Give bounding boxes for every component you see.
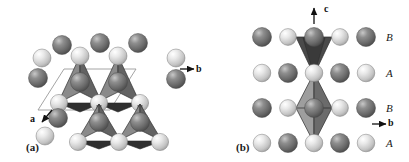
light-atom xyxy=(280,29,297,46)
dark-atom xyxy=(331,134,350,153)
light-atom xyxy=(280,100,297,117)
stacking-label-row-2: A xyxy=(386,67,393,79)
axis-label-a-panel-a: a xyxy=(30,113,35,124)
atom-row-back xyxy=(53,34,148,55)
light-atom xyxy=(305,64,323,82)
dark-atom xyxy=(129,34,148,53)
stacking-label-row-1: B xyxy=(386,31,393,43)
dark-atom xyxy=(131,113,150,132)
dark-atom xyxy=(53,36,72,55)
dark-atom xyxy=(253,99,272,118)
panel-label-a: (a) xyxy=(26,141,39,153)
light-atom xyxy=(253,134,271,152)
axis-label-c-panel-b: c xyxy=(324,3,328,14)
crystal-structure-figure: (a) (b) b a c b B A B A xyxy=(0,0,409,162)
axis-label-b-panel-b: b xyxy=(388,117,394,128)
light-atom xyxy=(33,49,51,67)
light-atom xyxy=(109,47,127,65)
dark-atom xyxy=(90,113,109,132)
panel-a-group xyxy=(29,34,195,151)
light-atom xyxy=(357,64,375,82)
light-atom xyxy=(151,133,168,150)
dark-atom xyxy=(109,73,128,92)
light-atom xyxy=(357,134,375,152)
stacking-label-row-3: B xyxy=(386,102,393,114)
light-atom xyxy=(110,133,127,150)
light-atom xyxy=(69,133,86,150)
panel-b-group xyxy=(253,8,387,153)
light-atom xyxy=(305,134,323,152)
panel-label-b: (b) xyxy=(236,141,249,153)
stacking-label-row-4: A xyxy=(386,137,393,149)
atom-row-B-lower xyxy=(253,99,376,118)
atom-row-A-bottom xyxy=(253,134,375,153)
dark-atom xyxy=(305,99,324,118)
light-atom xyxy=(253,64,271,82)
dark-atom xyxy=(29,69,48,88)
dark-atom xyxy=(71,73,90,92)
dark-atom xyxy=(279,134,298,153)
dark-atom xyxy=(305,28,324,47)
atom-row-A-upper xyxy=(253,64,375,83)
dark-atom xyxy=(331,64,350,83)
structure-svg xyxy=(0,0,409,162)
dark-atom xyxy=(279,64,298,83)
axis-label-b-panel-a: b xyxy=(196,63,202,74)
dark-atom xyxy=(253,28,272,47)
dark-atom xyxy=(91,34,110,53)
atom-row-B-top xyxy=(253,28,376,47)
dark-atom xyxy=(167,70,186,89)
light-atom xyxy=(71,47,89,65)
light-atom xyxy=(332,100,349,117)
light-atom xyxy=(332,29,349,46)
dark-atom xyxy=(357,28,376,47)
light-atom xyxy=(167,49,185,67)
dark-atom xyxy=(357,99,376,118)
